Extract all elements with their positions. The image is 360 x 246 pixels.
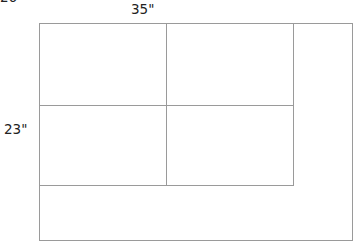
outer-rectangle	[40, 24, 353, 241]
rectangle-diagram-svg	[0, 0, 360, 246]
diagram-canvas: 26" 35" 23"	[0, 0, 360, 246]
